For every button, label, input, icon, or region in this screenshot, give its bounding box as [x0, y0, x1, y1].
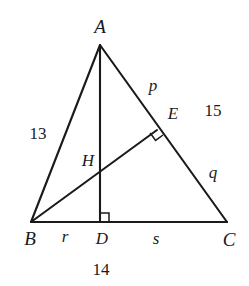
- side-ac-length-label: 15: [205, 102, 222, 119]
- point-label-d: D: [96, 230, 108, 247]
- vertex-label-c: C: [223, 230, 236, 249]
- segment-label-r: r: [62, 228, 69, 245]
- triangle-diagram-canvas: [0, 0, 249, 286]
- side-ab-length-label: 13: [30, 125, 47, 142]
- side-bc-length-label: 14: [93, 261, 110, 278]
- right-angle-marker-d: [100, 213, 109, 222]
- vertex-label-a: A: [94, 17, 106, 36]
- segment-label-q: q: [209, 164, 218, 181]
- triangle-abc: [31, 45, 227, 222]
- point-label-e: E: [168, 105, 178, 122]
- side-ac: [100, 45, 227, 222]
- geometry-figure: A B C D E H 13 15 14 p q r s: [0, 0, 249, 286]
- segment-label-s: s: [153, 230, 160, 247]
- point-label-h: H: [82, 152, 94, 169]
- vertex-label-b: B: [24, 229, 36, 248]
- segment-label-p: p: [149, 77, 158, 94]
